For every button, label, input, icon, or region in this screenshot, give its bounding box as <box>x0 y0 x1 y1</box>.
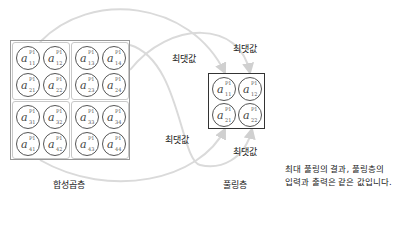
explanation-note: 최대 풀링의 결과, 풀링층의 입력과 출력은 같은 값입니다. <box>285 163 392 189</box>
conv-cell: aP132 <box>43 105 67 129</box>
conv-cell: aP122 <box>43 73 67 97</box>
conv-cell: aP124 <box>102 73 126 97</box>
pooling-layer-label: 풀링층 <box>223 178 247 191</box>
max-label-top-left: 최댓값 <box>172 52 196 65</box>
convolution-layer-grid: aP111 aP112 aP121 aP122 aP113 aP114 aP12… <box>10 40 130 160</box>
pool-cell: aP111 <box>212 77 236 101</box>
pool-cell: aP112 <box>238 77 262 101</box>
conv-cell: aP112 <box>43 46 67 70</box>
conv-cell: aP123 <box>75 73 99 97</box>
max-label-bottom-left: 최댓값 <box>165 133 189 146</box>
note-line-2: 입력과 출력은 같은 값입니다. <box>285 176 392 189</box>
pool-cell: aP122 <box>238 103 262 127</box>
conv-quadrant-top-left: aP111 aP112 aP121 aP122 <box>12 42 70 100</box>
conv-cell: aP113 <box>75 46 99 70</box>
conv-quadrant-bottom-right: aP133 aP134 aP143 aP144 <box>71 101 129 159</box>
max-label-top-right: 최댓값 <box>233 42 257 55</box>
conv-cell: aP144 <box>102 132 126 156</box>
conv-layer-label: 합성곱층 <box>53 178 85 191</box>
conv-cell: aP141 <box>16 132 40 156</box>
pooling-layer-grid: aP111 aP112 aP121 aP122 <box>208 73 265 129</box>
conv-cell: aP111 <box>16 46 40 70</box>
conv-cell: aP143 <box>75 132 99 156</box>
conv-quadrant-top-right: aP113 aP114 aP123 aP124 <box>71 42 129 100</box>
conv-cell: aP142 <box>43 132 67 156</box>
conv-cell: aP134 <box>102 105 126 129</box>
conv-cell: aP121 <box>16 73 40 97</box>
conv-cell: aP133 <box>75 105 99 129</box>
conv-cell: aP114 <box>102 46 126 70</box>
conv-quadrant-bottom-left: aP131 aP132 aP141 aP142 <box>12 101 70 159</box>
max-label-bottom-right: 최댓값 <box>233 145 257 158</box>
pool-cell: aP121 <box>212 103 236 127</box>
note-line-1: 최대 풀링의 결과, 풀링층의 <box>285 163 392 176</box>
conv-cell: aP131 <box>16 105 40 129</box>
